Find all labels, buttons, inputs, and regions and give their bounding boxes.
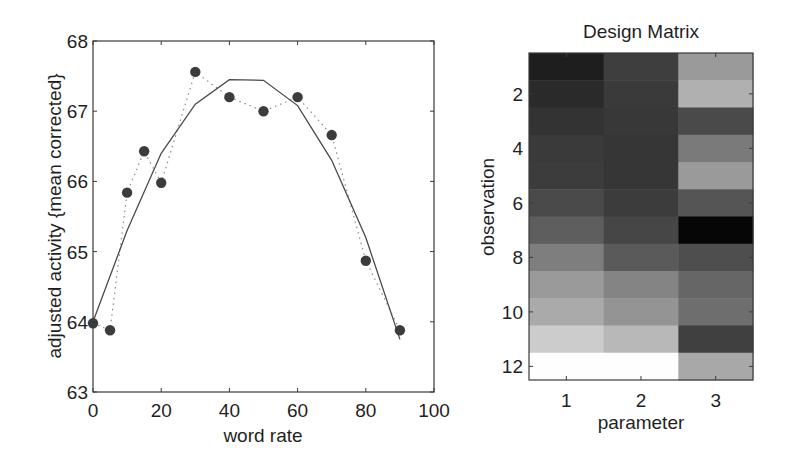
matrix-cell — [678, 326, 753, 354]
matrix-cell — [604, 108, 679, 136]
y-tick-label: 68 — [67, 31, 88, 52]
fitted-response-line — [93, 80, 400, 340]
data-point — [224, 92, 234, 102]
matrix-x-tick-labels: 123 — [561, 390, 721, 411]
matrix-cell — [604, 162, 679, 190]
matrix-cell — [529, 244, 604, 272]
data-point — [395, 325, 405, 335]
matrix-cell — [678, 217, 753, 245]
x-axis-label: word rate — [222, 425, 302, 446]
matrix-x-tick-label: 1 — [561, 390, 572, 411]
figure: 020406080100 636465666768 word rate adju… — [0, 0, 787, 456]
matrix-cell — [604, 189, 679, 217]
data-point — [105, 325, 115, 335]
matrix-x-axis-label: parameter — [598, 412, 685, 433]
data-point — [156, 178, 166, 188]
y-tick-label: 63 — [67, 382, 88, 403]
matrix-cell — [604, 53, 679, 81]
data-point — [122, 187, 132, 197]
y-tick-label: 67 — [67, 101, 88, 122]
x-tick-label: 20 — [151, 400, 172, 421]
matrix-cell — [678, 108, 753, 136]
matrix-y-tick-label: 6 — [512, 193, 523, 214]
matrix-cell — [529, 162, 604, 190]
matrix-y-axis-label: observation — [477, 158, 498, 256]
matrix-y-tick-labels: 24681012 — [502, 84, 524, 378]
plot-axes-frame — [93, 41, 434, 392]
x-tick-label: 40 — [219, 400, 240, 421]
matrix-cell — [678, 189, 753, 217]
matrix-cell — [678, 162, 753, 190]
data-point — [327, 130, 337, 140]
matrix-cell — [678, 271, 753, 299]
matrix-cell — [604, 80, 679, 108]
matrix-cell — [529, 80, 604, 108]
matrix-y-tick-label: 4 — [512, 138, 523, 159]
matrix-x-tick-label: 3 — [710, 390, 721, 411]
matrix-y-tick-label: 10 — [502, 302, 523, 323]
y-tick-label: 66 — [67, 171, 88, 192]
matrix-y-tick-label: 8 — [512, 247, 523, 268]
matrix-cell — [604, 298, 679, 326]
y-tick-label: 65 — [67, 242, 88, 263]
data-point — [292, 92, 302, 102]
matrix-cell — [529, 298, 604, 326]
matrix-cell — [678, 298, 753, 326]
data-point — [190, 67, 200, 77]
x-tick-label: 80 — [355, 400, 376, 421]
matrix-y-tick-label: 2 — [512, 84, 523, 105]
matrix-cell — [529, 108, 604, 136]
matrix-cell — [678, 135, 753, 163]
matrix-cell — [604, 244, 679, 272]
matrix-cell — [604, 271, 679, 299]
matrix-cell — [529, 189, 604, 217]
y-tick-labels: 636465666768 — [67, 31, 89, 403]
x-tick-label: 0 — [88, 400, 99, 421]
design-matrix-title: Design Matrix — [583, 21, 700, 42]
x-tick-labels: 020406080100 — [88, 400, 450, 421]
data-point — [139, 146, 149, 156]
matrix-cell — [529, 271, 604, 299]
matrix-cell — [529, 135, 604, 163]
matrix-x-tick-label: 2 — [636, 390, 647, 411]
y-tick-label: 64 — [67, 312, 89, 333]
matrix-cell — [678, 53, 753, 81]
matrix-cell — [529, 217, 604, 245]
x-tick-label: 100 — [418, 400, 450, 421]
data-point — [361, 256, 371, 266]
word-rate-response-plot: 020406080100 636465666768 word rate adju… — [44, 31, 450, 446]
x-tick-label: 60 — [287, 400, 308, 421]
observed-dotted-line — [93, 72, 400, 330]
axis-ticks — [93, 41, 434, 392]
matrix-cell — [604, 217, 679, 245]
matrix-cell — [604, 326, 679, 354]
matrix-cell — [604, 135, 679, 163]
plot-data-area — [88, 67, 405, 340]
y-axis-label: adjusted activity {mean corrected} — [44, 73, 65, 358]
design-matrix-plot: Design Matrix 123 24681012 parameter obs… — [477, 21, 754, 433]
matrix-cell — [678, 244, 753, 272]
matrix-cell — [529, 53, 604, 81]
matrix-cell — [678, 80, 753, 108]
data-point — [258, 106, 268, 116]
matrix-cell — [529, 326, 604, 354]
matrix-y-tick-label: 12 — [502, 356, 523, 377]
design-matrix-cells — [529, 53, 754, 381]
